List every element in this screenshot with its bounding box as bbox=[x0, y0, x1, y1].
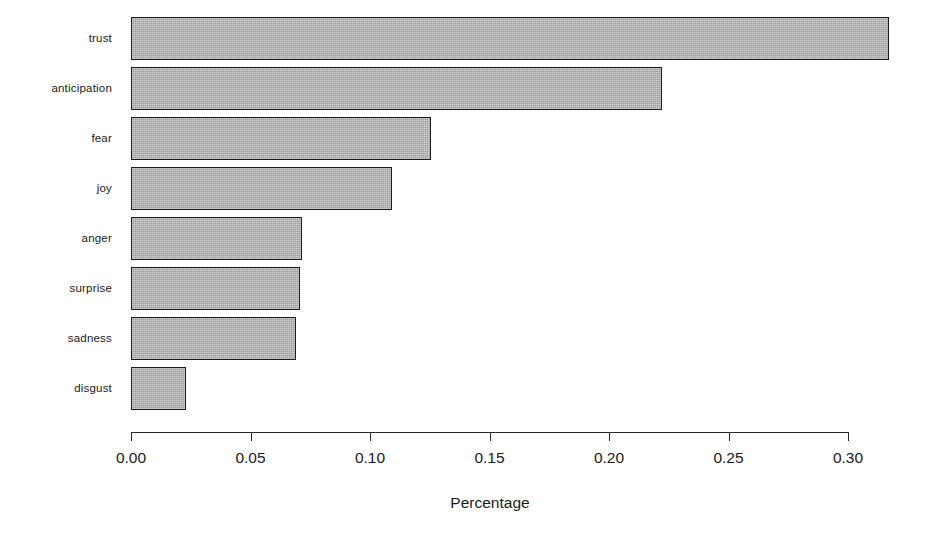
x-axis-tick-label-0.30: 0.30 bbox=[833, 450, 863, 466]
category-label-disgust: disgust bbox=[0, 383, 112, 395]
x-axis-title: Percentage bbox=[450, 495, 529, 511]
bar-surprise bbox=[131, 267, 300, 310]
bar-row: joy bbox=[0, 167, 929, 210]
bar-row: trust bbox=[0, 17, 929, 60]
x-axis-tick-label-0.20: 0.20 bbox=[594, 450, 624, 466]
bar-row: fear bbox=[0, 117, 929, 160]
x-axis-tick-label-0.05: 0.05 bbox=[235, 450, 265, 466]
x-axis-tick-0.15 bbox=[490, 432, 491, 441]
bar-anger bbox=[131, 217, 302, 260]
x-axis-tick-0.25 bbox=[729, 432, 730, 441]
bar-disgust bbox=[131, 367, 186, 410]
chart-figure: trustanticipationfearjoyangersurprisesad… bbox=[0, 0, 929, 539]
category-label-sadness: sadness bbox=[0, 333, 112, 345]
category-label-anticipation: anticipation bbox=[0, 83, 112, 95]
bar-row: anticipation bbox=[0, 67, 929, 110]
category-label-fear: fear bbox=[0, 133, 112, 145]
x-axis-tick-label-0.00: 0.00 bbox=[116, 450, 146, 466]
category-label-anger: anger bbox=[0, 233, 112, 245]
bar-anticipation bbox=[131, 67, 662, 110]
x-axis-tick-0.30 bbox=[848, 432, 849, 441]
plot-area: trustanticipationfearjoyangersurprisesad… bbox=[0, 0, 929, 539]
bar-row: disgust bbox=[0, 367, 929, 410]
x-axis-tick-0.05 bbox=[251, 432, 252, 441]
category-label-surprise: surprise bbox=[0, 283, 112, 295]
x-axis-tick-0.20 bbox=[609, 432, 610, 441]
bar-sadness bbox=[131, 317, 296, 360]
x-axis-tick-label-0.15: 0.15 bbox=[474, 450, 504, 466]
category-label-trust: trust bbox=[0, 33, 112, 45]
x-axis-tick-0.00 bbox=[131, 432, 132, 441]
bar-joy bbox=[131, 167, 392, 210]
bar-row: anger bbox=[0, 217, 929, 260]
x-axis-tick-label-0.25: 0.25 bbox=[713, 450, 743, 466]
bar-trust bbox=[131, 17, 889, 60]
bar-row: sadness bbox=[0, 317, 929, 360]
x-axis-tick-label-0.10: 0.10 bbox=[355, 450, 385, 466]
category-label-joy: joy bbox=[0, 183, 112, 195]
bar-row: surprise bbox=[0, 267, 929, 310]
x-axis-tick-0.10 bbox=[370, 432, 371, 441]
bar-fear bbox=[131, 117, 431, 160]
